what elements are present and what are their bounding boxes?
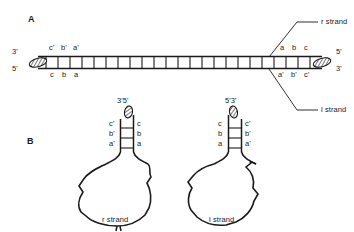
duplex-right-bottom-seq-0: a' <box>278 71 284 79</box>
l-stem-right-seq-1: b' <box>245 130 251 138</box>
duplex-left-top-seq-1: b' <box>61 44 67 52</box>
duplex-right-top-seq-2: c <box>304 44 308 52</box>
r-stem-right-seq-1: b <box>137 130 141 138</box>
l-structure-caption: l strand <box>209 216 234 224</box>
r-strand-callout-label: r strand <box>321 18 347 26</box>
left-terminal-protein-cap <box>28 56 48 69</box>
r-stem-left-seq-1: b' <box>109 130 115 138</box>
duplex-left-bottom-seq-0: c <box>50 71 54 79</box>
l-stem-right-seq-2: a' <box>245 140 251 148</box>
duplex-left-bottom-end-label: 5' <box>12 65 18 73</box>
r-loop-left-splay <box>106 152 121 164</box>
duplex-right-bottom-seq-1: b' <box>291 71 297 79</box>
duplex-left-top-end-label: 3' <box>12 48 18 56</box>
duplex-right-bottom-end-label: 3' <box>336 65 342 73</box>
l-stem-left-seq-1: b <box>218 130 222 138</box>
duplex-right-bottom-seq-2: c' <box>304 71 310 79</box>
l-stem-left-seq-2: a <box>218 140 222 148</box>
duplex-left-bottom-seq-2: a <box>74 71 78 79</box>
r-stem-left-seq-2: a' <box>109 140 115 148</box>
duplex-right-top-seq-1: b <box>292 44 296 52</box>
r-structure-caption: r strand <box>102 216 128 224</box>
l-stem-right-seq-0: c' <box>245 120 251 128</box>
l-strand-protein-cap <box>229 105 239 118</box>
right-terminal-protein-cap <box>312 56 332 69</box>
r-stem-right-seq-0: c <box>137 120 141 128</box>
l-strand-callout-label: l strand <box>321 106 346 114</box>
duplex-right-top-seq-0: a <box>280 44 284 52</box>
r-stem-rungs <box>121 128 134 148</box>
duplex-rungs <box>46 57 310 69</box>
r-stem-left-seq-0: c' <box>109 120 115 128</box>
figure-svg <box>0 0 354 232</box>
figure-canvas: A 3' 5' 5' 3' c' b' a' c b a a b c a' b'… <box>0 0 354 232</box>
l-stem-rungs <box>229 128 242 148</box>
duplex-left-top-seq-2: a' <box>73 44 79 52</box>
l-structure-end-label: 5'3' <box>225 97 237 105</box>
r-stem-right-seq-2: a <box>137 140 141 148</box>
panel-b-letter: B <box>27 137 34 146</box>
r-strand-protein-cap <box>124 105 134 118</box>
duplex-left-top-seq-0: c' <box>49 44 55 52</box>
r-loop-right-splay <box>134 152 149 164</box>
r-structure-end-label: 3'5' <box>117 97 129 105</box>
panel-a-letter: A <box>28 15 35 24</box>
duplex-right-top-end-label: 5' <box>336 48 342 56</box>
l-stem-left-seq-0: c <box>218 120 222 128</box>
l-loop-left-splay <box>214 152 229 164</box>
panel-a-duplex <box>28 22 332 110</box>
duplex-left-bottom-seq-1: b <box>62 71 66 79</box>
